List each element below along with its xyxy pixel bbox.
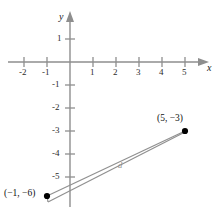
distance-segment-label: d bbox=[118, 160, 122, 170]
x-axis-label: x bbox=[207, 62, 211, 73]
y-tick-label--5: -5 bbox=[52, 171, 60, 181]
x-tick-label-4: 4 bbox=[159, 67, 164, 77]
point-upper-right-label: (5, −3) bbox=[157, 113, 183, 123]
x-tick-label-2: 2 bbox=[113, 67, 118, 77]
y-tick-label--4: -4 bbox=[52, 148, 60, 158]
y-tick-label-1: 1 bbox=[57, 33, 62, 43]
figure-container: -2 -1 1 2 3 4 5 1 -1 -2 -3 -4 -5 y x (5,… bbox=[0, 0, 223, 222]
distance-segment-line-lower bbox=[48, 132, 185, 202]
y-axis-label: y bbox=[59, 11, 63, 22]
y-axis-arrowhead bbox=[66, 11, 74, 22]
y-tick-label--2: -2 bbox=[52, 102, 60, 112]
point-upper-right-dot bbox=[182, 128, 188, 134]
y-tick-label--1: -1 bbox=[52, 79, 60, 89]
x-tick-label--1: -1 bbox=[42, 67, 50, 77]
x-tick-label-1: 1 bbox=[90, 67, 95, 77]
point-lower-left-dot bbox=[44, 193, 50, 199]
x-tick-label-5: 5 bbox=[182, 67, 187, 77]
distance-segment-line-upper bbox=[47, 131, 185, 196]
y-tick-label--3: -3 bbox=[52, 125, 60, 135]
point-lower-left-label: (−1, −6) bbox=[4, 188, 35, 198]
x-tick-label-3: 3 bbox=[136, 67, 141, 77]
distance-segment bbox=[47, 131, 185, 202]
x-tick-label--2: -2 bbox=[19, 67, 27, 77]
